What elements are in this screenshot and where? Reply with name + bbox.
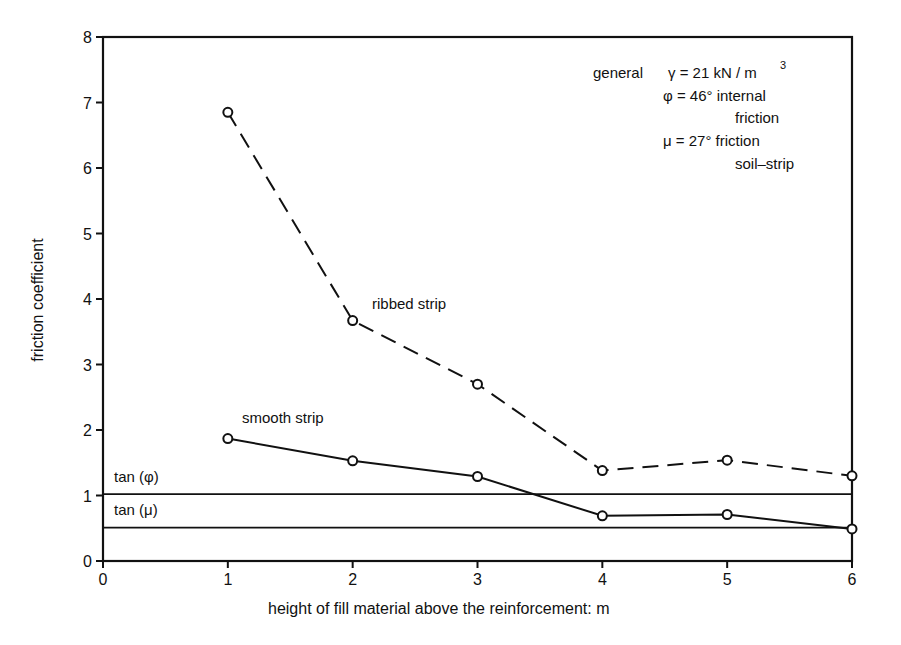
x-tick-label: 5 xyxy=(723,571,732,588)
data-point-marker xyxy=(473,472,482,481)
x-axis-label: height of fill material above the reinfo… xyxy=(268,600,610,617)
data-point-marker xyxy=(348,316,357,325)
y-tick-label: 5 xyxy=(83,226,92,243)
annotation-general: general xyxy=(593,64,643,81)
y-tick-label: 8 xyxy=(83,29,92,46)
y-tick-label: 1 xyxy=(83,488,92,505)
annotation-phi-cont: friction xyxy=(735,109,779,126)
smooth-strip-label: smooth strip xyxy=(242,409,324,426)
y-tick-label: 0 xyxy=(83,553,92,570)
data-point-marker xyxy=(848,471,857,480)
ribbed-strip-label: ribbed strip xyxy=(372,295,446,312)
y-tick-label: 7 xyxy=(83,95,92,112)
series-line xyxy=(228,439,852,529)
annotation-mu-cont: soil–strip xyxy=(735,155,794,172)
y-axis-label: friction coefficient xyxy=(29,238,46,362)
data-point-marker xyxy=(223,108,232,117)
friction-coefficient-chart: 0123456012345678 height of fill material… xyxy=(0,0,901,645)
data-point-marker xyxy=(723,510,732,519)
reference-lines xyxy=(103,494,852,527)
data-point-marker xyxy=(473,380,482,389)
annotation-gamma-sup: 3 xyxy=(780,59,786,71)
y-tick-label: 2 xyxy=(83,422,92,439)
x-tick-label: 2 xyxy=(348,571,357,588)
data-point-marker xyxy=(598,466,607,475)
data-point-marker xyxy=(223,434,232,443)
annotation-mu: μ = 27° friction xyxy=(663,132,760,149)
tan-mu-label: tan (μ) xyxy=(114,501,158,518)
annotation-gamma: γ = 21 kN / m xyxy=(668,64,757,81)
annotation-phi: φ = 46° internal xyxy=(663,87,766,104)
x-tick-label: 1 xyxy=(223,571,232,588)
parameters-annotation: general γ = 21 kN / m 3 φ = 46° internal… xyxy=(593,59,794,172)
x-tick-label: 6 xyxy=(848,571,857,588)
data-point-marker xyxy=(723,456,732,465)
x-tick-label: 4 xyxy=(598,571,607,588)
y-tick-label: 6 xyxy=(83,160,92,177)
y-tick-label: 3 xyxy=(83,357,92,374)
tan-phi-label: tan (φ) xyxy=(114,468,159,485)
data-point-marker xyxy=(848,524,857,533)
data-point-marker xyxy=(348,456,357,465)
x-tick-label: 3 xyxy=(473,571,482,588)
y-tick-label: 4 xyxy=(83,291,92,308)
x-tick-label: 0 xyxy=(99,571,108,588)
data-point-marker xyxy=(598,511,607,520)
